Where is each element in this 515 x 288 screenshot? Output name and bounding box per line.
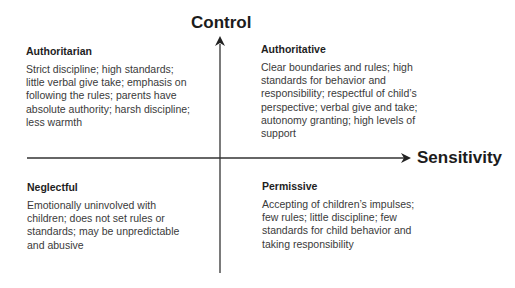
description-line: less warmth (26, 116, 216, 129)
description-line: standards for child behavior and (262, 224, 452, 237)
description-line: standards for behavior and (261, 74, 451, 87)
description-line: following the rules; parents have (26, 89, 216, 102)
quadrant-permissive: Permissive Accepting of children’s impul… (262, 180, 452, 251)
quadrant-authoritative: Authoritative Clear boundaries and rules… (261, 43, 451, 140)
quadrant-title: Permissive (262, 180, 452, 193)
quadrant-description: Accepting of children’s impulses; few ru… (262, 198, 452, 251)
description-line: and abusive (27, 239, 217, 252)
description-line: little verbal give take; emphasis on (26, 76, 216, 89)
description-line: Strict discipline; high standards; (26, 63, 216, 76)
description-line: absolute authority; harsh discipline; (26, 103, 216, 116)
quadrant-title: Neglectful (27, 181, 217, 194)
description-line: Emotionally uninvolved with (27, 199, 217, 212)
quadrant-description: Strict discipline; high standards; littl… (26, 63, 216, 129)
vertical-axis-label: Control (191, 14, 251, 31)
description-line: Clear boundaries and rules; high (261, 61, 451, 74)
quadrant-authoritarian: Authoritarian Strict discipline; high st… (26, 45, 216, 129)
quadrant-neglectful: Neglectful Emotionally uninvolved with c… (27, 181, 217, 252)
description-line: autonomy granting; high levels of (261, 114, 451, 127)
description-line: perspective; verbal give and take; (261, 101, 451, 114)
quadrant-title: Authoritarian (26, 45, 216, 58)
horizontal-axis-label: Sensitivity (417, 149, 502, 166)
description-line: Accepting of children’s impulses; (262, 198, 452, 211)
description-line: standards; may be unpredictable (27, 225, 217, 238)
description-line: support (261, 127, 451, 140)
description-line: children; does not set rules or (27, 212, 217, 225)
description-line: responsibility; respectful of child’s (261, 87, 451, 100)
quadrant-description: Emotionally uninvolved with children; do… (27, 199, 217, 252)
description-line: taking responsibility (262, 238, 452, 251)
description-line: few rules; little discipline; few (262, 211, 452, 224)
quadrant-title: Authoritative (261, 43, 451, 56)
quadrant-description: Clear boundaries and rules; high standar… (261, 61, 451, 140)
